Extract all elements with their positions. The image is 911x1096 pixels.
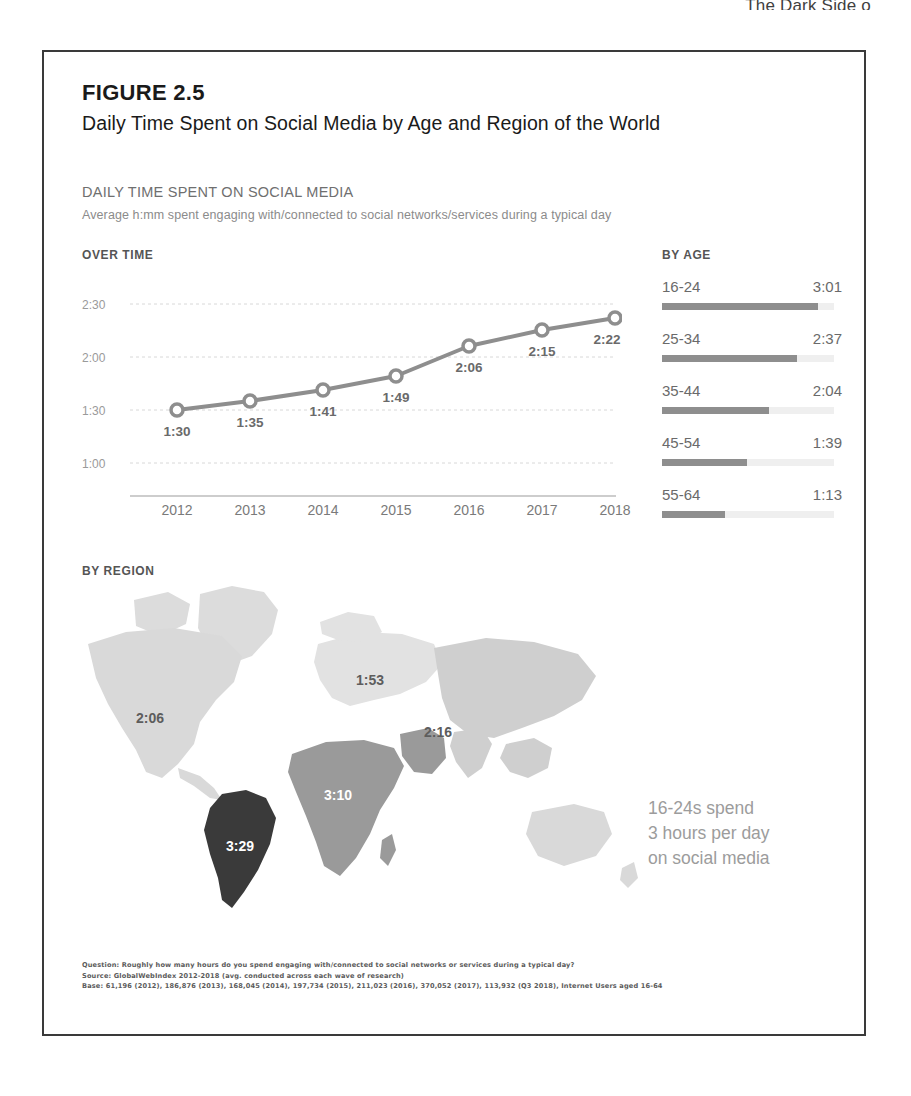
age-row-16-24: 16-24 3:01 — [662, 278, 842, 330]
age-group-label: 45-54 — [662, 434, 700, 451]
point-value-label: 2:06 — [447, 360, 491, 375]
age-bar-track — [662, 303, 834, 310]
map-region-europe — [314, 632, 442, 706]
callout-line-1: 16-24s spend — [648, 796, 848, 821]
age-group-label: 35-44 — [662, 382, 700, 399]
footnote-question: Question: Roughly how many hours do you … — [82, 960, 822, 971]
x-tick-label: 2013 — [222, 502, 278, 518]
age-row-25-34: 25-34 2:37 — [662, 330, 842, 382]
y-tick-label: 1:30 — [82, 404, 105, 418]
age-group-label: 16-24 — [662, 278, 700, 295]
figure-label: FIGURE 2.5 — [82, 80, 205, 106]
point-value-label: 1:41 — [301, 404, 345, 419]
map-region-central-america — [178, 768, 222, 800]
age-bar-track — [662, 459, 834, 466]
by-region-map: BY REGION — [82, 564, 842, 934]
figure-frame: FIGURE 2.5 Daily Time Spent on Social Me… — [42, 50, 866, 1036]
point-value-label: 1:35 — [228, 415, 272, 430]
age-bar-fill — [662, 407, 769, 414]
age-group-value: 1:39 — [813, 434, 842, 451]
age-row-45-54: 45-54 1:39 — [662, 434, 842, 486]
by-region-heading: BY REGION — [82, 564, 155, 578]
callout-line-2: 3 hours per day — [648, 821, 848, 846]
by-age-chart: BY AGE 16-24 3:01 25-34 2:37 35-44 2:04 … — [662, 248, 842, 538]
world-map: 2:06 3:29 1:53 3:10 2:16 — [82, 582, 642, 912]
figure-title: Daily Time Spent on Social Media by Age … — [82, 112, 660, 135]
age-group-label: 25-34 — [662, 330, 700, 347]
map-region-asia — [434, 638, 596, 738]
age-bar-track — [662, 355, 834, 362]
map-region-southeast-asia — [500, 738, 552, 778]
point-value-label: 1:49 — [374, 390, 418, 405]
age-row-55-64: 55-64 1:13 — [662, 486, 842, 538]
x-tick-label: 2016 — [441, 502, 497, 518]
by-age-heading: BY AGE — [662, 248, 842, 262]
running-header: The Dark Side o — [745, 0, 871, 10]
age-bar-fill — [662, 303, 818, 310]
footnote: Question: Roughly how many hours do you … — [82, 960, 822, 992]
map-region-madagascar — [380, 834, 396, 866]
x-tick-label: 2018 — [587, 502, 643, 518]
age-group-value: 2:04 — [813, 382, 842, 399]
map-region-australia — [526, 804, 612, 866]
point-value-label: 1:30 — [155, 424, 199, 439]
map-region-new-zealand — [620, 862, 638, 888]
y-tick-label: 2:30 — [82, 298, 105, 312]
age-bar-fill — [662, 355, 797, 362]
map-value-latin-america: 3:29 — [214, 838, 266, 854]
map-region-north-america — [88, 628, 242, 778]
age-group-value: 2:37 — [813, 330, 842, 347]
age-group-value: 1:13 — [813, 486, 842, 503]
map-value-europe: 1:53 — [344, 672, 396, 688]
age-bar-track — [662, 407, 834, 414]
panel-subtitle: Average h:mm spent engaging with/connect… — [82, 208, 611, 222]
age-bar-fill — [662, 511, 725, 518]
y-tick-label: 2:00 — [82, 351, 105, 365]
callout-text: 16-24s spend 3 hours per day on social m… — [648, 796, 848, 871]
age-row-35-44: 35-44 2:04 — [662, 382, 842, 434]
map-value-asia-pacific: 2:16 — [412, 724, 464, 740]
x-tick-label: 2017 — [514, 502, 570, 518]
line-chart-plot: 2:30 2:00 1:30 1:00 1:30 1:35 1:41 1:49 … — [82, 274, 622, 514]
panel-title: DAILY TIME SPENT ON SOCIAL MEDIA — [82, 184, 354, 200]
callout-line-3: on social media — [648, 846, 848, 871]
age-bar-track — [662, 511, 834, 518]
age-group-label: 55-64 — [662, 486, 700, 503]
age-group-value: 3:01 — [813, 278, 842, 295]
over-time-chart: OVER TIME — [82, 248, 622, 538]
x-tick-label: 2015 — [368, 502, 424, 518]
footnote-source: Source: GlobalWebIndex 2012-2018 (avg. c… — [82, 971, 822, 982]
x-tick-label: 2012 — [149, 502, 205, 518]
age-bar-fill — [662, 459, 747, 466]
line-chart-svg — [82, 274, 622, 514]
map-value-africa: 3:10 — [312, 787, 364, 803]
point-value-label: 2:22 — [585, 332, 629, 347]
world-map-svg — [82, 582, 642, 912]
footnote-base: Base: 61,196 (2012), 186,876 (2013), 168… — [82, 981, 822, 992]
y-tick-label: 1:00 — [82, 457, 105, 471]
point-value-label: 2:15 — [520, 344, 564, 359]
x-tick-label: 2014 — [295, 502, 351, 518]
over-time-heading: OVER TIME — [82, 248, 153, 262]
map-value-north-america: 2:06 — [124, 710, 176, 726]
